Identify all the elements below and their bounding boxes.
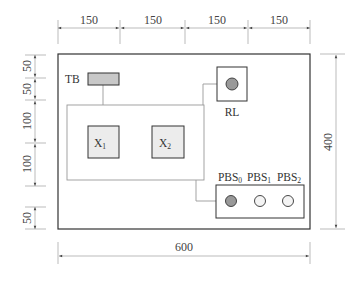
dim-top-1: 150 xyxy=(80,13,98,27)
dim-right: 400 xyxy=(321,133,335,151)
tb-block xyxy=(88,73,119,85)
pbs1-button-icon xyxy=(255,196,266,207)
dim-left-2: 50 xyxy=(20,83,34,95)
left-dimensions xyxy=(25,55,46,229)
dim-left-4: 100 xyxy=(20,155,34,173)
pbs0-button-icon xyxy=(226,196,237,207)
dim-left-5: 50 xyxy=(20,212,34,224)
pbs2-button-icon xyxy=(283,196,294,207)
dim-top-2: 150 xyxy=(144,13,162,27)
dim-bottom: 600 xyxy=(175,240,193,254)
dim-top-3: 150 xyxy=(208,13,226,27)
panel-layout-diagram: 150 150 150 150 50 50 100 100 50 400 600 xyxy=(0,0,363,281)
dim-left-3: 100 xyxy=(20,112,34,130)
rl-indicator-icon xyxy=(226,78,238,90)
dim-left-1: 50 xyxy=(20,60,34,72)
dim-top-4: 150 xyxy=(270,13,288,27)
tb-label: TB xyxy=(65,73,80,85)
rl-label: RL xyxy=(225,106,240,118)
